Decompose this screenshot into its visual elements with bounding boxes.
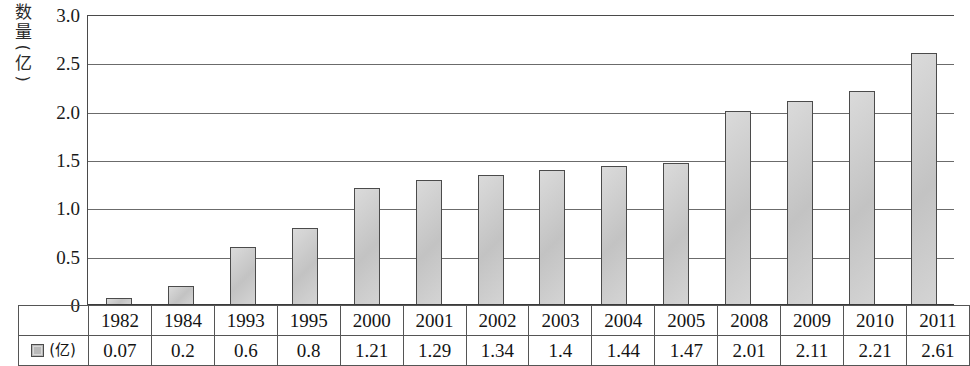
y-tick-label-2.0: 2.0: [56, 103, 80, 122]
y-tick-label-3.0: 3.0: [56, 6, 80, 25]
bar-slot-2005: [645, 16, 707, 305]
value-cell-1993: 0.6: [214, 336, 277, 366]
value-cell-2000: 1.21: [340, 336, 403, 366]
y-tick-label-1.5: 1.5: [56, 151, 80, 170]
value-cell-2004: 1.44: [592, 336, 655, 366]
bar-slot-2009: [769, 16, 831, 305]
bar-slot-2004: [583, 16, 645, 305]
bar-slot-2002: [460, 16, 522, 305]
year-cell-2001: 2001: [403, 306, 466, 336]
bar-slot-2003: [522, 16, 584, 305]
bar-2010[interactable]: [849, 91, 875, 305]
year-cell-1995: 1995: [277, 306, 340, 336]
year-cell-1993: 1993: [214, 306, 277, 336]
value-cell-2005: 1.47: [655, 336, 718, 366]
bar-slot-2011: [893, 16, 955, 305]
year-cell-2010: 2010: [844, 306, 907, 336]
table-row-values: (亿) 0.070.20.60.81.211.291.341.41.441.47…: [19, 336, 970, 366]
value-cell-2002: 1.34: [466, 336, 529, 366]
value-cell-2009: 2.11: [781, 336, 844, 366]
bar-slot-1993: [212, 16, 274, 305]
bar-slot-1995: [274, 16, 336, 305]
plot-area: [87, 15, 954, 305]
bar-slot-1982: [88, 16, 150, 305]
bar-2009[interactable]: [787, 101, 813, 305]
bar-series: [88, 16, 954, 305]
y-axis-title-char-1: 数: [6, 2, 40, 22]
year-cell-2004: 2004: [592, 306, 655, 336]
bar-2001[interactable]: [416, 180, 442, 305]
gray-square-swatch-icon: [31, 344, 44, 357]
value-cell-2001: 1.29: [403, 336, 466, 366]
bar-slot-2010: [831, 16, 893, 305]
value-cell-2003: 1.4: [529, 336, 592, 366]
value-cell-2011: 2.61: [906, 336, 969, 366]
value-cell-1995: 0.8: [277, 336, 340, 366]
table-row-years: 1982198419931995200020012002200320042005…: [19, 306, 970, 336]
bar-slot-2001: [398, 16, 460, 305]
bar-slot-1984: [150, 16, 212, 305]
bar-2002[interactable]: [478, 175, 504, 305]
y-tick-label-1.0: 1.0: [56, 199, 80, 218]
year-cell-1982: 1982: [89, 306, 152, 336]
year-cell-2005: 2005: [655, 306, 718, 336]
value-cell-1982: 0.07: [89, 336, 152, 366]
data-table: 1982198419931995200020012002200320042005…: [18, 305, 970, 366]
year-cell-2000: 2000: [340, 306, 403, 336]
bar-slot-2008: [707, 16, 769, 305]
data-table-wrapper: 1982198419931995200020012002200320042005…: [18, 305, 954, 363]
y-axis-title-paren-open: (: [18, 31, 29, 65]
bar-2005[interactable]: [663, 163, 689, 305]
y-tick-label-0.5: 0.5: [56, 248, 80, 267]
year-cell-2003: 2003: [529, 306, 592, 336]
table-corner-blank: [19, 306, 89, 336]
value-cell-1984: 0.2: [151, 336, 214, 366]
bar-2000[interactable]: [354, 188, 380, 305]
bar-2011[interactable]: [911, 53, 937, 305]
value-cell-2008: 2.01: [718, 336, 781, 366]
y-tick-label-2.5: 2.5: [56, 54, 80, 73]
year-cell-2008: 2008: [718, 306, 781, 336]
y-axis-title-paren-close: ): [18, 62, 29, 96]
year-cell-2002: 2002: [466, 306, 529, 336]
bar-1984[interactable]: [168, 286, 194, 305]
bar-2003[interactable]: [539, 170, 565, 305]
bar-2008[interactable]: [725, 111, 751, 305]
y-axis-title: 数 量 ( 亿 ): [6, 2, 40, 84]
y-axis-tick-labels: 00.51.01.52.02.53.0: [38, 0, 84, 320]
year-cell-2011: 2011: [906, 306, 969, 336]
legend-label: (亿): [49, 341, 76, 360]
bar-1995[interactable]: [292, 228, 318, 305]
legend-cell: (亿): [19, 336, 89, 366]
year-cell-1984: 1984: [151, 306, 214, 336]
bar-2004[interactable]: [601, 166, 627, 305]
year-cell-2009: 2009: [781, 306, 844, 336]
bar-1993[interactable]: [230, 247, 256, 305]
value-cell-2010: 2.21: [844, 336, 907, 366]
bar-slot-2000: [336, 16, 398, 305]
